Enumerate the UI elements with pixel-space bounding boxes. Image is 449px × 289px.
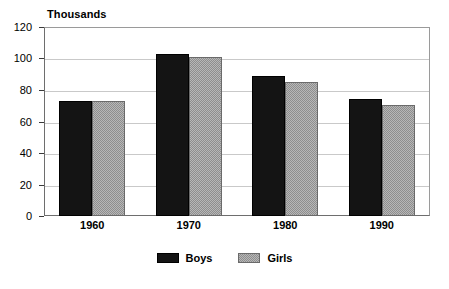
legend-label: Girls xyxy=(267,252,292,264)
bar-boys-1970[interactable] xyxy=(156,54,189,216)
legend-label: Boys xyxy=(186,252,213,264)
bar-boys-1980[interactable] xyxy=(252,76,285,216)
bar-group xyxy=(59,27,125,216)
legend-swatch-boys xyxy=(157,253,179,263)
y-tick-mark xyxy=(39,185,44,186)
y-tick-mark xyxy=(39,58,44,59)
y-tick-label: 40 xyxy=(20,147,32,159)
bar-girls-1970[interactable] xyxy=(189,57,222,216)
y-tick-label: 100 xyxy=(14,52,32,64)
y-tick-label: 80 xyxy=(20,84,32,96)
bar-boys-1960[interactable] xyxy=(59,101,92,216)
y-tick-label: 120 xyxy=(14,21,32,33)
bar-group xyxy=(156,27,222,216)
y-tick-mark xyxy=(39,216,44,217)
y-tick-label: 60 xyxy=(20,116,32,128)
bar-boys-1990[interactable] xyxy=(349,99,382,216)
bar-girls-1990[interactable] xyxy=(382,105,415,216)
bar-girls-1980[interactable] xyxy=(285,82,318,216)
y-axis: 020406080100120 xyxy=(0,27,40,216)
bar-group xyxy=(349,27,415,216)
x-tick-label: 1960 xyxy=(80,219,104,231)
x-tick-label: 1970 xyxy=(177,219,201,231)
x-tick-label: 1980 xyxy=(273,219,297,231)
y-tick-mark xyxy=(39,153,44,154)
bar-chart: Thousands 020406080100120 19601970198019… xyxy=(0,0,449,289)
chart-legend: BoysGirls xyxy=(0,252,449,264)
bars-layer xyxy=(44,27,430,216)
bar-group xyxy=(252,27,318,216)
legend-swatch-girls xyxy=(238,253,260,263)
chart-title: Thousands xyxy=(47,8,107,20)
y-tick-mark xyxy=(39,122,44,123)
x-axis: 1960197019801990 xyxy=(44,219,430,237)
bar-girls-1960[interactable] xyxy=(92,101,125,216)
y-tick-label: 0 xyxy=(26,210,32,222)
y-tick-label: 20 xyxy=(20,179,32,191)
legend-item-girls[interactable]: Girls xyxy=(238,252,292,264)
y-tick-mark xyxy=(39,90,44,91)
legend-item-boys[interactable]: Boys xyxy=(157,252,213,264)
y-tick-mark xyxy=(39,27,44,28)
x-tick-label: 1990 xyxy=(370,219,394,231)
